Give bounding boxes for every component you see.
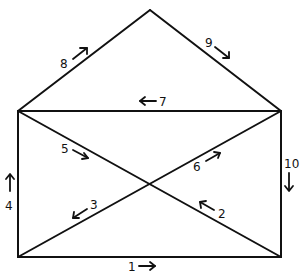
arrow-up-right-icon	[206, 152, 220, 161]
edge-number-7: 7	[159, 95, 167, 109]
arrow-down-icon	[285, 173, 293, 191]
edge-label-1: 1	[128, 260, 155, 274]
edge-number-5: 5	[61, 142, 69, 156]
arrow-down-left-icon	[73, 209, 87, 218]
edge-8-roof-left	[18, 10, 150, 111]
edge-number-6: 6	[193, 160, 201, 174]
edge-number-9: 9	[205, 36, 213, 50]
arrow-down-right-icon	[73, 150, 88, 159]
edge-number-1: 1	[128, 260, 136, 274]
edge-label-4: 4	[5, 174, 14, 213]
edge-label-6: 6	[193, 152, 220, 174]
arrow-left-icon	[140, 97, 156, 105]
edge-number-8: 8	[60, 57, 68, 71]
edges	[18, 10, 281, 257]
edge-label-7: 7	[140, 95, 167, 109]
edge-label-2: 2	[200, 201, 226, 221]
arrow-up-right-icon	[73, 48, 87, 59]
edge-number-4: 4	[5, 199, 13, 213]
edge-number-2: 2	[218, 207, 226, 221]
edge-label-10: 10	[284, 157, 299, 191]
edge-label-5: 5	[61, 142, 88, 159]
edge-number-3: 3	[90, 198, 98, 212]
arrow-right-icon	[139, 262, 155, 270]
arrow-up-icon	[6, 174, 14, 191]
edge-number-10: 10	[284, 157, 299, 171]
arrow-up-left-icon	[200, 201, 214, 210]
arrow-down-right-icon	[215, 47, 229, 58]
edge-9-roof-right	[150, 10, 281, 111]
euler-path-diagram: 8 9 7 5 6	[0, 0, 305, 278]
